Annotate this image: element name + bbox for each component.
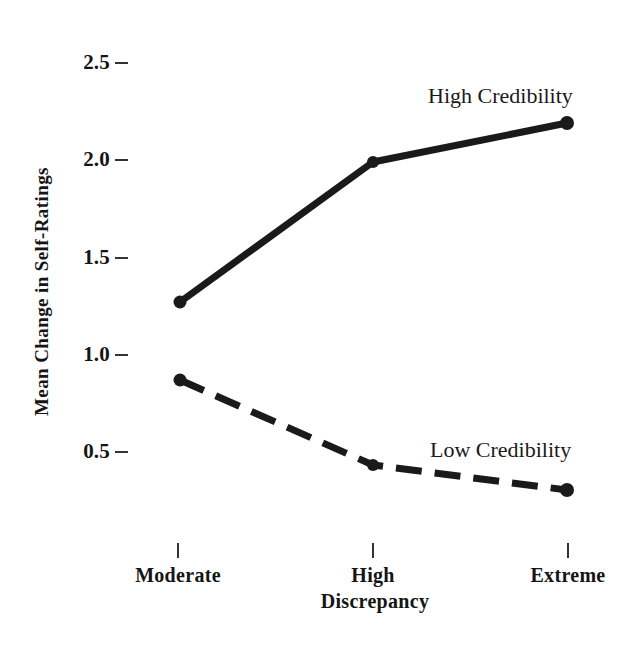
series-label-low-credibility: Low Credibility bbox=[430, 437, 571, 463]
series-line-low-credibility bbox=[180, 380, 567, 490]
line-chart: 2.5 2.0 1.5 1.0 0.5 Moderate High Extrem… bbox=[0, 0, 638, 647]
series-markers-low-credibility bbox=[174, 374, 575, 498]
x-axis-tick-label: Extreme bbox=[488, 564, 638, 587]
series-markers-high-credibility bbox=[174, 116, 575, 309]
data-point-marker bbox=[560, 116, 574, 130]
series-line-high-credibility bbox=[180, 123, 567, 302]
y-axis-tick-label: 2.5 bbox=[38, 50, 110, 75]
y-axis-ticks bbox=[115, 63, 128, 452]
series-label-high-credibility: High Credibility bbox=[428, 83, 573, 109]
data-point-marker bbox=[174, 296, 187, 309]
data-point-marker bbox=[367, 156, 379, 168]
data-point-marker bbox=[560, 483, 574, 497]
data-point-marker bbox=[174, 374, 187, 387]
x-axis-title: Discrepancy bbox=[225, 590, 525, 613]
data-point-marker bbox=[367, 459, 379, 471]
x-axis-tick-label: Moderate bbox=[98, 564, 258, 587]
x-axis-ticks bbox=[178, 543, 568, 558]
y-axis-title: Mean Change in Self-Ratings bbox=[31, 167, 53, 416]
y-axis-tick-label: 0.5 bbox=[38, 439, 110, 464]
x-axis-tick-label: High bbox=[293, 564, 453, 587]
